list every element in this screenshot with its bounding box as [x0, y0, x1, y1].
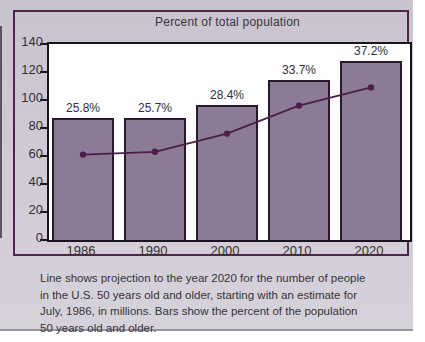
y-axis: 020406080100120140	[8, 42, 43, 238]
chart-title: Percent of total population	[47, 15, 408, 29]
chart-caption: Line shows projection to the year 2020 f…	[40, 270, 400, 336]
y-tick-label: 140	[21, 35, 43, 49]
x-tick-label: 1986	[67, 243, 96, 258]
x-tick-label: 2020	[355, 243, 384, 258]
caption-line: in the U.S. 50 years old and older, star…	[40, 287, 400, 304]
y-tick-label: 20	[29, 203, 43, 217]
caption-line: Line shows projection to the year 2020 f…	[40, 270, 400, 287]
x-axis: 19861990200020102020	[47, 243, 408, 259]
y-tick-label: 120	[21, 63, 43, 77]
line-point	[152, 149, 158, 155]
x-tick-label: 2010	[283, 243, 312, 258]
line-point	[296, 102, 302, 108]
x-tick-label: 1990	[139, 243, 168, 258]
caption-line: July, 1986, in millions. Bars show the p…	[40, 303, 400, 320]
plot-area: 25.8%25.7%28.4%33.7%37.2%	[47, 42, 412, 242]
figure-card: Percent of total population 25.8%25.7%28…	[0, 0, 413, 331]
page-edge-shadow	[0, 26, 2, 238]
y-tick-label: 100	[21, 91, 43, 105]
y-tick-label: 0	[36, 231, 43, 245]
line-point	[224, 130, 230, 136]
projection-line	[49, 44, 410, 240]
line-point	[368, 84, 374, 90]
y-tick-label: 40	[29, 175, 43, 189]
page: { "chart_data": { "type": "combo-bar-lin…	[0, 0, 425, 342]
y-tick-label: 60	[29, 147, 43, 161]
caption-line: 50 years old and older.	[40, 320, 400, 337]
line-point	[80, 151, 86, 157]
x-tick-label: 2000	[211, 243, 240, 258]
y-tick-label: 80	[29, 119, 43, 133]
